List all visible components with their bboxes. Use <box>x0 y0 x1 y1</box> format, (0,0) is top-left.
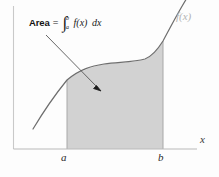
formula-differential: dx <box>92 18 101 28</box>
formula-integrand: f(x) <box>74 18 88 28</box>
tick-label-a: a <box>61 152 67 163</box>
formula-area-word: Area <box>29 18 50 28</box>
tick-label-b: b <box>158 152 164 163</box>
formula-equals-sign: = <box>52 18 60 28</box>
area-formula-annotation: Area = ∫ b a f(x) dx <box>29 15 101 30</box>
figure-container: Area = ∫ b a f(x) dx f(x) a b x <box>0 0 219 177</box>
curve-label-fx: f(x) <box>176 11 191 22</box>
axis-label-x: x <box>200 134 205 145</box>
integral-upper-limit: b <box>66 15 69 21</box>
integral-lower-limit: a <box>66 24 69 30</box>
integral-group: ∫ b a <box>62 15 69 30</box>
